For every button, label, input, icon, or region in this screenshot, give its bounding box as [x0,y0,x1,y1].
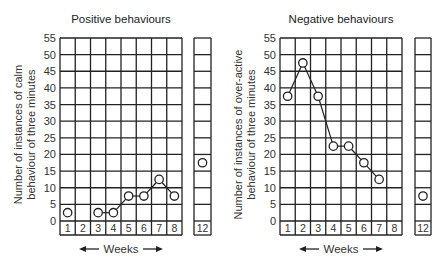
negative-y-tick-labels: 0510152025303540455055 [264,32,276,227]
svg-text:8: 8 [171,222,177,234]
svg-text:6: 6 [361,222,367,234]
svg-text:40: 40 [264,82,276,94]
svg-text:25: 25 [264,132,276,144]
svg-text:0: 0 [270,215,276,227]
svg-text:5: 5 [346,222,352,234]
data-point-marker [299,59,307,67]
svg-text:35: 35 [264,99,276,111]
data-point-marker [283,92,291,100]
svg-text:4: 4 [330,222,336,234]
svg-text:12: 12 [197,222,209,234]
svg-text:50: 50 [44,49,56,61]
svg-text:Number of instances of over-ac: Number of instances of over-active [232,50,244,220]
svg-text:30: 30 [264,115,276,127]
svg-text:15: 15 [44,165,56,177]
data-point-marker [329,142,337,150]
svg-text:25: 25 [44,132,56,144]
svg-text:20: 20 [44,148,56,160]
positive-y-axis-label: Number of instances of calmbehaviour of … [12,65,37,204]
data-point-marker [314,92,322,100]
svg-text:12: 12 [417,222,429,234]
positive-x-axis-label: Weeks [79,243,163,255]
svg-text:2: 2 [300,222,306,234]
svg-text:1: 1 [65,222,71,234]
positive-week12-column [194,38,211,235]
svg-text:Weeks: Weeks [324,243,359,255]
svg-text:4: 4 [110,222,116,234]
data-point-marker [375,175,383,183]
positive-chart-title: Positive behaviours [71,13,171,25]
positive-behaviours-chart: Positive behavioursNumber of instances o… [12,13,211,255]
svg-text:2: 2 [80,222,86,234]
svg-text:5: 5 [50,198,56,210]
svg-text:3: 3 [315,222,321,234]
svg-text:8: 8 [391,222,397,234]
svg-text:45: 45 [264,65,276,77]
negative-behaviours-chart: Negative behavioursNumber of instances o… [232,13,431,255]
svg-text:0: 0 [50,215,56,227]
svg-text:6: 6 [141,222,147,234]
data-point-marker [170,192,178,200]
week12-data-point-marker [419,192,427,200]
svg-text:10: 10 [264,182,276,194]
week12-data-point-marker [198,159,206,167]
svg-text:7: 7 [376,222,382,234]
svg-text:50: 50 [264,49,276,61]
svg-text:behaviour of three minutes: behaviour of three minutes [25,69,37,200]
svg-text:Weeks: Weeks [104,243,139,255]
svg-text:1: 1 [285,222,291,234]
svg-text:10: 10 [44,182,56,194]
negative-week12-column [415,38,431,235]
svg-text:Number of instances of calm: Number of instances of calm [12,65,24,204]
svg-text:45: 45 [44,65,56,77]
negative-y-axis-label: Number of instances of over-activebehavi… [232,50,257,220]
svg-text:5: 5 [270,198,276,210]
data-point-marker [109,208,117,216]
positive-grid [60,38,182,235]
negative-chart-title: Negative behaviours [289,13,394,25]
svg-text:55: 55 [44,32,56,44]
svg-text:20: 20 [264,148,276,160]
negative-grid [280,38,402,235]
data-point-marker [155,175,163,183]
behaviour-charts: Positive behavioursNumber of instances o… [0,0,445,258]
data-point-marker [124,192,132,200]
negative-series [283,59,427,200]
svg-text:30: 30 [44,115,56,127]
data-point-marker [63,208,71,216]
data-point-marker [344,142,352,150]
svg-text:behaviour of three minutes: behaviour of three minutes [245,69,257,200]
data-point-marker [140,192,148,200]
negative-x-axis-label: Weeks [299,243,383,255]
svg-text:3: 3 [95,222,101,234]
positive-y-tick-labels: 0510152025303540455055 [44,32,56,227]
svg-text:15: 15 [264,165,276,177]
svg-text:35: 35 [44,99,56,111]
svg-text:7: 7 [156,222,162,234]
svg-text:55: 55 [264,32,276,44]
svg-text:40: 40 [44,82,56,94]
data-point-marker [360,159,368,167]
svg-text:5: 5 [126,222,132,234]
data-point-marker [94,208,102,216]
